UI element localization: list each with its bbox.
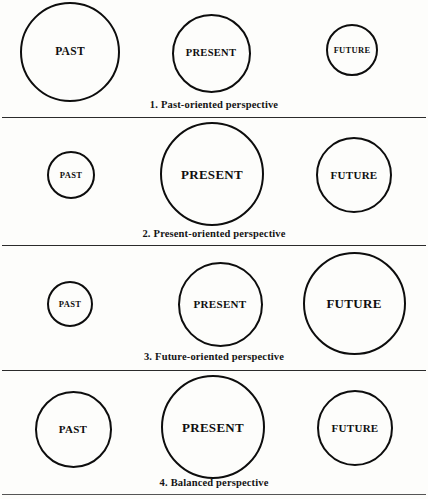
row-caption-4: 4.Balanced perspective <box>0 477 428 488</box>
time-perspective-figure: PASTPRESENTFUTUREPASTPRESENTFUTUREPASTPR… <box>0 0 428 499</box>
circle-past-row1: PAST <box>20 2 120 102</box>
circle-label: PRESENT <box>181 168 243 181</box>
caption-text: Future-oriented perspective <box>155 351 284 362</box>
circle-present-row3: PRESENT <box>178 262 263 347</box>
caption-number: 2. <box>142 228 150 239</box>
caption-number: 1. <box>150 99 158 110</box>
circle-future-row2: FUTURE <box>316 137 392 213</box>
section-divider-1 <box>2 117 426 118</box>
circle-label: PRESENT <box>182 421 244 434</box>
circle-present-row1: PRESENT <box>172 14 251 93</box>
circle-future-row3: FUTURE <box>303 252 406 355</box>
caption-number: 3. <box>144 351 152 362</box>
circle-label: PAST <box>60 171 82 180</box>
caption-text: Present-oriented perspective <box>154 228 286 239</box>
section-divider-2 <box>2 245 426 246</box>
circle-future-row1: FUTURE <box>326 24 378 76</box>
row-caption-1: 1.Past-oriented perspective <box>0 99 428 110</box>
circle-past-row3: PAST <box>47 281 93 327</box>
circle-label: FUTURE <box>330 170 377 181</box>
circle-past-row2: PAST <box>47 151 95 199</box>
caption-text: Balanced perspective <box>171 477 269 488</box>
circle-label: PAST <box>59 424 88 435</box>
circle-label: PRESENT <box>186 48 237 59</box>
row-caption-2: 2.Present-oriented perspective <box>0 228 428 239</box>
circle-layer: PASTPRESENTFUTUREPASTPRESENTFUTUREPASTPR… <box>0 0 428 499</box>
circle-present-row2: PRESENT <box>160 122 264 226</box>
circle-label: PRESENT <box>194 299 247 310</box>
circle-label: FUTURE <box>334 46 371 55</box>
circle-label: FUTURE <box>331 423 378 434</box>
circle-present-row4: PRESENT <box>161 375 265 479</box>
circle-label: FUTURE <box>326 297 381 310</box>
circle-past-row4: PAST <box>35 391 112 468</box>
caption-number: 4. <box>160 477 168 488</box>
caption-text: Past-oriented perspective <box>161 99 278 110</box>
section-divider-4 <box>2 494 426 495</box>
circle-future-row4: FUTURE <box>317 390 393 466</box>
row-caption-3: 3.Future-oriented perspective <box>0 351 428 362</box>
circle-label: PAST <box>59 300 81 309</box>
circle-label: PAST <box>55 46 85 58</box>
section-divider-3 <box>2 370 426 371</box>
